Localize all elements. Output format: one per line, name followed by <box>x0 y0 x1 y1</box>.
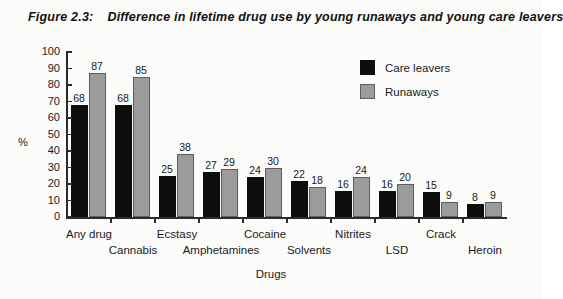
y-axis-tick-label: 40 <box>30 144 60 156</box>
bar <box>221 169 238 217</box>
y-axis-tick-label: 80 <box>30 78 60 90</box>
y-axis-tick-label: 0 <box>30 210 60 222</box>
bar <box>71 105 88 217</box>
bar <box>89 73 106 217</box>
bar-value-label: 20 <box>392 171 419 183</box>
x-axis-tick <box>198 218 200 223</box>
legend-item-care-leavers: Care leavers <box>360 60 450 75</box>
x-axis-title: Drugs <box>0 268 542 280</box>
legend-item-runaways: Runaways <box>360 84 450 99</box>
y-axis-tick <box>67 167 72 169</box>
x-axis-tick <box>462 218 464 223</box>
figure-title-text: Difference in lifetime drug use by young… <box>107 10 563 24</box>
y-axis-tick <box>67 101 72 103</box>
bar <box>203 172 220 217</box>
legend-swatch-icon-runaways <box>360 84 375 99</box>
y-axis-tick-label: 100 <box>30 45 60 57</box>
bar <box>265 168 282 218</box>
x-axis-category-label: LSD <box>386 244 408 256</box>
bar-value-label: 30 <box>260 155 287 167</box>
legend-label-care-leavers: Care leavers <box>385 62 450 74</box>
bar <box>441 202 458 217</box>
bar <box>397 184 414 217</box>
x-axis-tick <box>374 218 376 223</box>
bar-value-label: 29 <box>216 156 243 168</box>
y-axis-tick <box>67 200 72 202</box>
y-axis-tick-label: 50 <box>30 128 60 140</box>
x-axis-category-label: Cannabis <box>109 244 158 256</box>
x-axis-tick <box>154 218 156 223</box>
chart-legend: Care leavers Runaways <box>360 60 450 108</box>
y-axis-tick <box>67 150 72 152</box>
x-axis-tick <box>330 218 332 223</box>
bar <box>309 187 326 217</box>
y-axis-tick <box>67 68 72 70</box>
bar <box>485 202 502 217</box>
bar <box>335 191 352 217</box>
x-axis-category-label: Ecstasy <box>157 228 197 240</box>
y-axis-tick <box>67 134 72 136</box>
bar-value-label: 9 <box>436 189 463 201</box>
y-axis-tick-label: 60 <box>30 111 60 123</box>
bar <box>159 176 176 217</box>
bar-value-label: 24 <box>348 164 375 176</box>
y-axis-tick-label: 10 <box>30 194 60 206</box>
x-axis-tick <box>242 218 244 223</box>
y-axis-tick <box>67 84 72 86</box>
bar <box>133 77 150 217</box>
x-axis-category-label: Nitrites <box>335 228 371 240</box>
y-axis-tick <box>67 51 72 53</box>
x-axis-tick <box>110 218 112 223</box>
figure-title: Figure 2.3:Difference in lifetime drug u… <box>28 10 563 24</box>
y-axis-tick-label: 70 <box>30 95 60 107</box>
y-axis-tick-labels: 0102030405060708090100 <box>26 0 60 299</box>
bar <box>115 105 132 217</box>
bar <box>177 154 194 217</box>
y-axis-tick-label: 90 <box>30 62 60 74</box>
bar <box>379 191 396 217</box>
x-axis-tick <box>286 218 288 223</box>
y-axis-tick <box>67 216 72 218</box>
x-axis-category-label: Cocaine <box>244 228 286 240</box>
bar-value-label: 38 <box>172 141 199 153</box>
bar-value-label: 18 <box>304 174 331 186</box>
x-axis-tick <box>418 218 420 223</box>
bar <box>353 177 370 217</box>
x-axis-category-label: Crack <box>426 228 456 240</box>
legend-label-runaways: Runaways <box>385 86 439 98</box>
x-axis-category-label: Amphetamines <box>183 244 260 256</box>
bar-value-label: 87 <box>84 60 111 72</box>
x-axis-category-label: Solvents <box>287 244 331 256</box>
bar <box>467 204 484 217</box>
y-axis-tick-label: 30 <box>30 161 60 173</box>
legend-swatch-icon-care-leavers <box>360 60 375 75</box>
bar-value-label: 85 <box>128 64 155 76</box>
bar <box>247 177 264 217</box>
x-axis-category-label: Any drug <box>66 228 112 240</box>
y-axis-tick <box>67 183 72 185</box>
y-axis-tick-label: 20 <box>30 177 60 189</box>
y-axis-tick <box>67 117 72 119</box>
bar-value-label: 9 <box>480 189 507 201</box>
x-axis-category-label: Heroin <box>468 244 502 256</box>
